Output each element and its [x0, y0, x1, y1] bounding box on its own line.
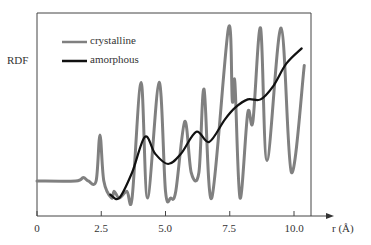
x-tick-label: 5.0: [158, 222, 172, 234]
y-axis-label: RDF: [7, 54, 28, 66]
x-tick-label: 0: [34, 222, 40, 234]
x-axis-label: r (Å): [332, 222, 354, 234]
x-ticks: [37, 211, 294, 216]
x-tick-label: 10.0: [284, 222, 303, 234]
series-crystalline: [37, 26, 304, 205]
x-tick-label: 2.5: [94, 222, 108, 234]
rdf-chart: [0, 0, 371, 245]
x-axis-arrow-icon: [326, 213, 334, 219]
legend-label-crystalline: crystalline: [90, 34, 136, 46]
legend-label-amorphous: amorphous: [90, 53, 139, 65]
x-tick-label: 7.5: [222, 222, 236, 234]
